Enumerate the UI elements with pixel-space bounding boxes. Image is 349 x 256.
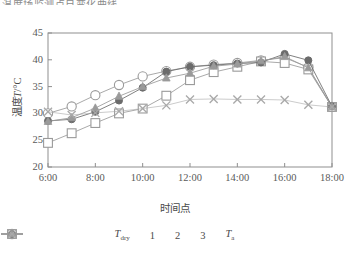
marker-open-circle bbox=[91, 91, 100, 100]
legend-item-1[interactable]: 1 bbox=[150, 230, 155, 241]
chart-figure: 温度场监测点日变化曲线。 温度T/°C 时间点 202530354045 6:0… bbox=[0, 0, 349, 256]
marker-open-square bbox=[162, 91, 171, 100]
legend-item-T_a[interactable]: Ta bbox=[225, 228, 234, 242]
chart-legend: Tdry123Ta bbox=[0, 228, 349, 242]
marker-open-circle bbox=[67, 102, 76, 111]
legend-label-2: 2 bbox=[175, 230, 180, 241]
marker-open-square bbox=[115, 109, 124, 118]
legend-label-1: 1 bbox=[150, 230, 155, 241]
legend-label-T_dry: Tdry bbox=[115, 228, 130, 242]
legend-item-3[interactable]: 3 bbox=[200, 230, 205, 241]
legend-label-3: 3 bbox=[200, 230, 205, 241]
plot-area bbox=[0, 0, 349, 256]
marker-open-square bbox=[186, 76, 195, 85]
legend-label-T_a: Ta bbox=[225, 228, 234, 242]
marker-open-circle bbox=[114, 80, 123, 89]
legend-item-T_dry[interactable]: Tdry bbox=[115, 228, 130, 242]
legend-swatch-cross-icon bbox=[0, 228, 24, 240]
legend-item-2[interactable]: 2 bbox=[175, 230, 180, 241]
marker-open-square bbox=[44, 138, 53, 147]
marker-open-square bbox=[67, 129, 76, 138]
marker-open-circle bbox=[138, 72, 147, 81]
marker-open-square bbox=[91, 119, 100, 128]
series-line-T_a bbox=[48, 99, 332, 115]
